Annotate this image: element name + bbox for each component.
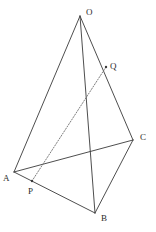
vertex-label-Q: Q xyxy=(110,62,117,71)
vertex-label-O: O xyxy=(86,8,93,17)
edge-layer xyxy=(14,16,133,213)
edge-OA xyxy=(14,16,80,172)
tetrahedron-drawing xyxy=(0,0,156,232)
point-marker-P xyxy=(31,180,33,182)
segment-PQ xyxy=(32,67,106,181)
vertex-label-A: A xyxy=(3,174,10,183)
vertex-label-C: C xyxy=(140,133,146,142)
edge-BC xyxy=(95,140,133,213)
geometry-figure: O A B C P Q xyxy=(0,0,156,232)
vertex-label-B: B xyxy=(101,214,107,223)
vertex-label-P: P xyxy=(28,187,33,196)
edge-AB xyxy=(14,172,95,213)
edge-AC xyxy=(14,140,133,172)
point-marker-Q xyxy=(105,66,107,68)
